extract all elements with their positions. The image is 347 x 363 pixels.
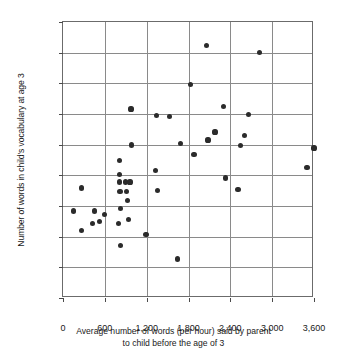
gridline-vertical: [272, 22, 273, 296]
x-axis-tick: [63, 298, 64, 302]
data-point: [143, 232, 148, 237]
data-point: [125, 198, 130, 203]
gridline-vertical: [105, 22, 106, 296]
x-axis-tick: [105, 298, 106, 302]
y-axis-tick: [59, 83, 63, 84]
data-point: [188, 82, 193, 87]
x-axis-title: Average number of words (per hour) said …: [0, 326, 347, 349]
x-axis-tick: [230, 298, 231, 302]
data-point: [97, 219, 102, 224]
y-axis-tick: [59, 114, 63, 115]
data-point: [116, 221, 121, 226]
data-point: [175, 256, 180, 261]
x-axis-tick: [314, 298, 315, 302]
data-point: [126, 217, 131, 222]
data-point: [117, 179, 122, 184]
data-point: [246, 112, 251, 117]
data-point: [124, 189, 129, 194]
data-point: [129, 142, 134, 147]
y-axis-tick: [59, 53, 63, 54]
gridline-horizontal: [63, 145, 312, 146]
data-point: [102, 212, 107, 217]
data-point: [311, 145, 316, 150]
data-point: [92, 208, 97, 213]
y-axis-tick: [59, 175, 63, 176]
data-point: [118, 206, 123, 211]
data-point: [167, 114, 172, 119]
data-point: [304, 165, 309, 170]
scatter-plot-figure: Number of words in child's vocabulary at…: [0, 0, 347, 363]
data-point: [221, 104, 226, 109]
gridline-horizontal: [63, 237, 312, 238]
gridline-vertical: [230, 22, 231, 296]
data-point: [117, 158, 122, 163]
data-point: [117, 172, 122, 177]
data-point: [118, 243, 123, 248]
x-axis-tick: [272, 298, 273, 302]
data-point: [71, 208, 76, 213]
data-point: [191, 152, 196, 157]
gridline-horizontal: [63, 267, 312, 268]
plot-area: 02004006008001,0001,2001,4001,6001,80006…: [62, 21, 313, 297]
data-point: [205, 137, 210, 142]
gridline-horizontal: [63, 114, 312, 115]
gridline-vertical: [189, 22, 190, 296]
data-point: [257, 50, 262, 55]
gridline-horizontal: [63, 206, 312, 207]
gridline-horizontal: [63, 175, 312, 176]
gridline-vertical: [147, 22, 148, 296]
data-point: [235, 187, 240, 192]
y-axis-title: Number of words in child's vocabulary at…: [16, 35, 26, 285]
gridline-horizontal: [63, 53, 312, 54]
data-point: [155, 188, 160, 193]
data-point: [90, 221, 95, 226]
data-point: [223, 175, 228, 180]
y-axis-tick: [59, 237, 63, 238]
x-axis-title-line2: to child before the age of 3: [123, 338, 225, 348]
y-axis-tick: [59, 267, 63, 268]
y-axis-tick: [59, 22, 63, 23]
data-point: [242, 133, 247, 138]
data-point: [178, 141, 183, 146]
data-point: [79, 185, 84, 190]
x-axis-title-line1: Average number of words (per hour) said …: [76, 326, 271, 336]
data-point: [117, 189, 122, 194]
data-point: [238, 143, 243, 148]
data-point: [153, 168, 158, 173]
y-axis-tick: [59, 145, 63, 146]
data-point: [154, 113, 159, 118]
x-axis-tick: [189, 298, 190, 302]
data-point: [212, 129, 217, 134]
data-point: [79, 228, 84, 233]
data-point: [127, 179, 132, 184]
x-axis-tick: [147, 298, 148, 302]
data-point: [204, 43, 209, 48]
y-axis-tick: [59, 206, 63, 207]
data-point: [128, 106, 133, 111]
